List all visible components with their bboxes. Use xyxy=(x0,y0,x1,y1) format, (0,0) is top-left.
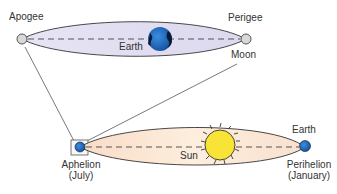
aphelion-month: (July) xyxy=(58,170,104,181)
earth-aphelion-icon xyxy=(75,142,85,152)
earth-icon-top xyxy=(148,27,172,51)
zoom-line-left xyxy=(25,47,74,141)
perihelion-text: Perihelion xyxy=(282,159,336,170)
moon-apogee-icon xyxy=(17,34,27,44)
perihelion-label: Perihelion (January) xyxy=(282,159,336,181)
aphelion-label: Aphelion (July) xyxy=(58,159,104,181)
apogee-label: Apogee xyxy=(9,11,43,22)
sun-label: Sun xyxy=(180,150,198,161)
moon-label: Moon xyxy=(231,49,256,60)
earth-label-top: Earth xyxy=(119,41,143,52)
earth-label-bottom: Earth xyxy=(292,124,316,135)
earth-perihelion-icon xyxy=(300,141,311,152)
aphelion-text: Aphelion xyxy=(58,159,104,170)
perihelion-month: (January) xyxy=(282,170,336,181)
moon-perigee-icon xyxy=(241,34,251,44)
perigee-label: Perigee xyxy=(228,12,262,23)
